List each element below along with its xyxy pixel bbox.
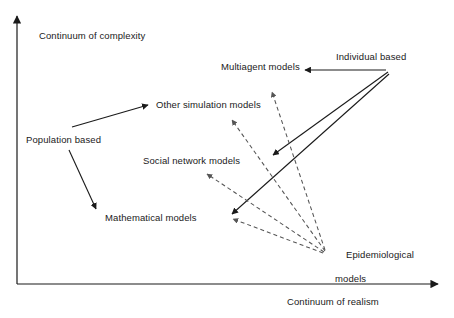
edge-epidemiological-to-social-network-models	[207, 174, 324, 252]
edge-population-to-other-simulation-models	[72, 105, 148, 127]
node-label-multiagent-models: Multiagent models	[221, 61, 300, 73]
node-label-other-simulation-models: Other simulation models	[156, 99, 261, 111]
node-label-social-network-models: Social network models	[143, 155, 240, 167]
y-axis-label: Continuum of complexity	[39, 30, 145, 42]
edge-individual-to-social-network-models	[273, 72, 388, 155]
epidemiological-label-line-2: models	[335, 273, 414, 285]
edge-epidemiological-to-mathematical-models	[233, 219, 323, 253]
solid-edges-group	[69, 70, 389, 214]
diagram-canvas: Continuum of complexity Continuum of rea…	[0, 0, 454, 318]
node-label-mathematical-models: Mathematical models	[105, 212, 197, 224]
edge-epidemiological-to-other-simulation-models	[232, 120, 325, 251]
node-label-individual-based: Individual based	[336, 51, 406, 63]
node-label-epidemiological-models: Epidemiological models	[335, 237, 414, 309]
edge-population-to-mathematical-models	[69, 150, 96, 209]
dashed-edges-group	[207, 92, 325, 253]
edge-individual-to-mathematical-models	[232, 74, 389, 214]
node-label-population-based: Population based	[26, 134, 101, 146]
epidemiological-label-line-1: Epidemiological	[346, 249, 414, 260]
